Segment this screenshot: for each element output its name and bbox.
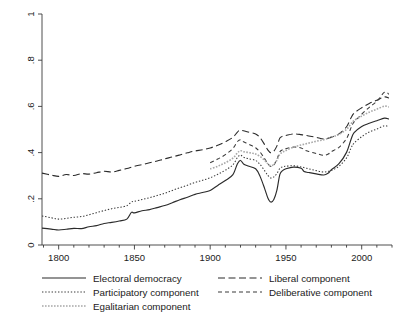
series-line xyxy=(210,106,389,169)
x-tick-label: 1800 xyxy=(48,252,69,263)
chart-legend: Electoral democracyLiberal componentPart… xyxy=(42,273,372,312)
x-tick-label: 1850 xyxy=(124,252,145,263)
y-tick-label: .6 xyxy=(25,102,36,110)
series-line xyxy=(210,92,389,166)
legend-label: Liberal component xyxy=(269,273,350,284)
y-tick-label: 0 xyxy=(25,242,36,247)
y-tick-label: .2 xyxy=(25,195,36,203)
legend-label: Electoral democracy xyxy=(93,273,182,284)
series-line xyxy=(42,118,389,230)
y-tick-label: .4 xyxy=(25,149,36,157)
x-tick-label: 1950 xyxy=(275,252,296,263)
y-axis: 0.2.4.6.81 xyxy=(25,11,43,247)
legend-label: Egalitarian component xyxy=(93,301,191,312)
line-chart: 0.2.4.6.81 18001850190019502000 Electora… xyxy=(0,0,408,317)
x-axis: 18001850190019502000 xyxy=(42,245,392,263)
y-tick-label: 1 xyxy=(25,11,36,16)
series-line xyxy=(42,97,389,177)
legend-label: Deliberative component xyxy=(269,287,372,298)
x-tick-label: 2000 xyxy=(351,252,372,263)
x-tick-label: 1900 xyxy=(200,252,221,263)
y-tick-label: .8 xyxy=(25,56,36,64)
series-line xyxy=(42,126,389,219)
legend-label: Participatory component xyxy=(93,287,199,298)
series-layer xyxy=(42,92,389,230)
chart-figure: 0.2.4.6.81 18001850190019502000 Electora… xyxy=(0,0,408,317)
